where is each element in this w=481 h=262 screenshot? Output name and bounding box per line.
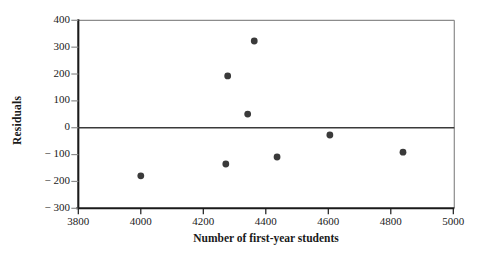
x-axis-tick-label: 4200 <box>173 215 233 227</box>
data-point <box>400 149 407 156</box>
data-point <box>274 154 281 161</box>
x-axis-tick-label: 5000 <box>423 215 481 227</box>
y-axis-tick-label: − 300 <box>20 201 70 213</box>
y-axis-tick-label: 100 <box>20 93 70 105</box>
y-axis-tick-label: − 100 <box>20 147 70 159</box>
data-point <box>251 38 258 45</box>
y-axis-tick-label: 200 <box>20 67 70 79</box>
data-point <box>222 161 229 168</box>
x-axis-tick-label: 4000 <box>111 215 171 227</box>
data-point <box>244 111 251 118</box>
y-axis-tick-label: 400 <box>20 13 70 25</box>
x-axis-tick-label: 4800 <box>361 215 421 227</box>
data-point <box>224 72 231 79</box>
x-axis-tick-label: 4400 <box>236 215 296 227</box>
residual-plot-figure: Residuals Number of first-year students … <box>0 0 481 262</box>
x-axis-tick-label: 4600 <box>298 215 358 227</box>
x-axis-tick-label: 3800 <box>48 215 108 227</box>
y-axis-tick-label: 300 <box>20 40 70 52</box>
y-axis-tick-label: − 200 <box>20 174 70 186</box>
y-axis-tick-label: 0 <box>20 120 70 132</box>
data-point <box>137 172 144 179</box>
data-point <box>326 132 333 139</box>
